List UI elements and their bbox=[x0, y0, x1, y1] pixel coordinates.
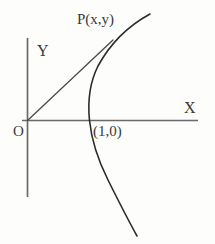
x-axis-label: X bbox=[184, 100, 196, 116]
figure-canvas bbox=[0, 0, 215, 244]
y-axis-label: Y bbox=[37, 43, 49, 59]
geometry-figure: P(x,y) Y X O (1,0) bbox=[0, 0, 215, 244]
x-intercept-label: (1,0) bbox=[93, 124, 122, 139]
origin-label: O bbox=[13, 124, 24, 139]
point-p-label: P(x,y) bbox=[77, 12, 114, 27]
